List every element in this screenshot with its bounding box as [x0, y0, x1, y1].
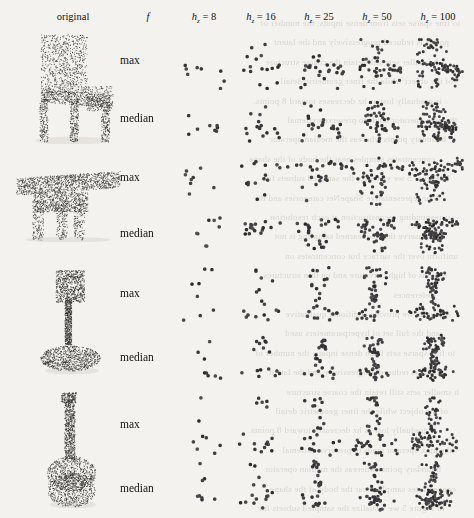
pointcloud-cell-table-max-hz50 [350, 156, 406, 206]
pointcloud-cell-lamp-max-hz8 [176, 266, 232, 322]
pointcloud-cell-chair-median-hz16 [234, 96, 290, 148]
pointcloud-cell-guitar-median-hz25 [292, 456, 348, 516]
pointcloud-cell-chair-max-hz100 [408, 38, 464, 90]
pointcloud-cell-table-median-hz100 [408, 210, 464, 260]
row-label-chair-max: max [120, 54, 140, 66]
pointcloud-cell-lamp-max-hz25 [292, 266, 348, 322]
pointcloud-cell-guitar-max-hz16 [234, 396, 290, 458]
pointcloud-cell-guitar-max-hz100 [408, 396, 464, 458]
row-label-lamp-median: median [120, 351, 154, 363]
row-label-guitar-median: median [120, 482, 154, 494]
row-label-lamp-max: max [120, 287, 140, 299]
row-label-chair-median: median [120, 112, 154, 124]
pointcloud-cell-table-max-hz8 [176, 156, 232, 206]
pointcloud-cell-guitar-max-hz25 [292, 396, 348, 458]
pointcloud-cell-lamp-max-hz50 [350, 266, 406, 322]
pointcloud-cell-chair-max-hz25 [292, 38, 348, 90]
header-hz-25: hz = 25 [290, 11, 348, 25]
figure-point-cloud-grid: original f hz = 8 hz = 16 hz = 25 hz = 5… [0, 0, 474, 518]
pointcloud-cell-table-median-hz25 [292, 210, 348, 260]
thumbnail-lamp [38, 268, 106, 374]
pointcloud-cell-table-max-hz16 [234, 156, 290, 206]
pointcloud-cell-table-median-hz8 [176, 210, 232, 260]
pointcloud-cell-table-median-hz16 [234, 210, 290, 260]
row-label-table-max: max [120, 171, 140, 183]
pointcloud-cell-guitar-median-hz50 [350, 456, 406, 516]
pointcloud-cell-chair-median-hz50 [350, 96, 406, 148]
pointcloud-cell-guitar-max-hz50 [350, 396, 406, 458]
thumbnail-guitar [44, 392, 102, 508]
pointcloud-cell-table-median-hz50 [350, 210, 406, 260]
header-hz-100: hz = 100 [406, 11, 470, 25]
pointcloud-cell-lamp-max-hz100 [408, 266, 464, 322]
pointcloud-cell-lamp-median-hz50 [350, 330, 406, 386]
pointcloud-cell-chair-median-hz25 [292, 96, 348, 148]
pointcloud-cell-table-max-hz100 [408, 156, 464, 206]
header-hz-8: hz = 8 [176, 11, 232, 25]
pointcloud-cell-guitar-max-hz8 [176, 396, 232, 458]
pointcloud-cell-lamp-max-hz16 [234, 266, 290, 322]
pointcloud-cell-lamp-median-hz8 [176, 330, 232, 386]
header-hz-50: hz = 50 [348, 11, 406, 25]
row-label-table-median: median [120, 227, 154, 239]
pointcloud-cell-chair-max-hz16 [234, 38, 290, 90]
pointcloud-cell-table-max-hz25 [292, 156, 348, 206]
pointcloud-cell-lamp-median-hz25 [292, 330, 348, 386]
pointcloud-cell-chair-median-hz8 [176, 96, 232, 148]
pointcloud-cell-guitar-median-hz16 [234, 456, 290, 516]
pointcloud-cell-guitar-median-hz8 [176, 456, 232, 516]
thumbnail-table [14, 166, 122, 242]
row-label-guitar-max: max [120, 418, 140, 430]
pointcloud-cell-lamp-median-hz16 [234, 330, 290, 386]
pointcloud-cell-guitar-median-hz100 [408, 456, 464, 516]
pointcloud-cell-chair-median-hz100 [408, 96, 464, 148]
thumbnail-chair [26, 32, 118, 144]
header-original: original [42, 11, 104, 22]
pointcloud-cell-chair-max-hz8 [176, 38, 232, 90]
pointcloud-cell-chair-max-hz50 [350, 38, 406, 90]
header-function-f: f [128, 11, 168, 22]
pointcloud-cell-lamp-median-hz100 [408, 330, 464, 386]
header-hz-16: hz = 16 [232, 11, 290, 25]
